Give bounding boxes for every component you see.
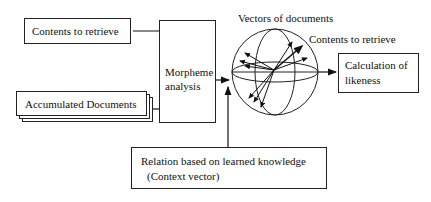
- vectors-of-documents-label: Vectors of documents: [238, 11, 333, 25]
- context-vector-label: (Context vector): [147, 169, 219, 183]
- morpheme-analysis-box: Morpheme analysis: [159, 20, 216, 123]
- analysis-label: analysis: [165, 79, 200, 93]
- relation-label: Relation based on learned knowledge: [141, 154, 306, 168]
- document-vectors-icon: [240, 42, 307, 107]
- calculation-of-likeness-box: Calculation of likeness: [338, 53, 419, 93]
- vector-space-sphere-icon: [232, 29, 318, 115]
- morpheme-label: Morpheme: [165, 65, 213, 79]
- contents-to-retrieve-label: Contents to retrieve: [32, 24, 119, 38]
- accumulated-documents-label: Accumulated Documents: [25, 97, 137, 111]
- likeness-label: likeness: [345, 73, 380, 87]
- calculation-label: Calculation of: [345, 58, 408, 72]
- sphere-contents-to-retrieve-label: Contents to retrieve: [309, 32, 396, 46]
- accumulated-documents-box: Accumulated Documents: [16, 91, 147, 116]
- contents-to-retrieve-box: Contents to retrieve: [24, 18, 131, 44]
- relation-learned-knowledge-box: Relation based on learned knowledge (Con…: [131, 147, 327, 189]
